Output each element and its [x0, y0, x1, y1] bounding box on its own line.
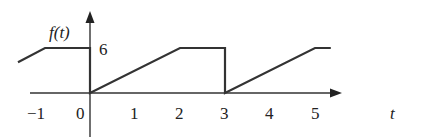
x-tick-4: 4 [265, 104, 274, 123]
chart-figure: f(t) 6 −1 0 1 2 3 4 5 t [0, 0, 421, 137]
series-f-of-t [18, 48, 331, 93]
x-axis-arrow-icon [330, 89, 342, 98]
y-tick-6: 6 [99, 40, 108, 59]
x-tick-1: 1 [130, 104, 139, 123]
chart-canvas: f(t) 6 −1 0 1 2 3 4 5 t [0, 0, 421, 137]
x-tick-0: 0 [76, 104, 85, 123]
y-axis-arrow-icon [86, 11, 95, 23]
y-axis-label: f(t) [49, 23, 70, 42]
x-tick-3: 3 [220, 104, 229, 123]
x-tick-5: 5 [311, 104, 320, 123]
x-tick-2: 2 [175, 104, 184, 123]
x-axis-label: t [390, 104, 396, 123]
x-tick-minus1: −1 [27, 104, 45, 123]
